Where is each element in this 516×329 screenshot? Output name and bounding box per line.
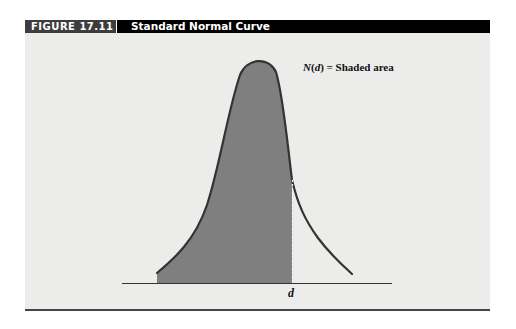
normal-curve-diagram <box>0 0 516 329</box>
shaded-area-label: N(d) = Shaded area <box>303 61 394 73</box>
shaded-area <box>157 61 292 283</box>
d-label: d <box>288 286 294 301</box>
